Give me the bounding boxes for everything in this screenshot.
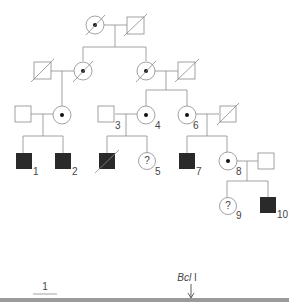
individual-IV-7 (258, 153, 274, 169)
individual-II-1 (31, 59, 54, 82)
unknown-status-icon: ? (144, 155, 150, 166)
individual-IV-4: ? 5 (139, 153, 162, 178)
individual-V-2: 10 (260, 197, 289, 220)
carrier-dot-icon (144, 113, 148, 117)
dna-bar (0, 298, 289, 302)
individual-label: 7 (196, 166, 202, 177)
individual-III-5: 6 (178, 106, 199, 131)
carrier-dot-icon (60, 113, 64, 117)
site-label: Bcl I (177, 272, 196, 283)
individual-II-3 (136, 61, 156, 82)
individual-label: 4 (155, 120, 161, 131)
individual-label: 3 (115, 120, 121, 131)
individual-III-3: 3 (98, 106, 121, 131)
carrier-dot-icon (185, 113, 189, 117)
individual-IV-5: 7 (179, 153, 202, 177)
individual-I-2 (124, 14, 147, 36)
individual-label: 8 (236, 166, 242, 177)
individual-label: 9 (236, 210, 242, 221)
individual-label: 5 (155, 166, 161, 177)
individual-IV-6: 8 (219, 152, 242, 177)
individual-I-1 (86, 15, 105, 35)
individual-III-2 (53, 106, 71, 124)
individual-label: 6 (193, 120, 199, 131)
individual-II-4 (175, 59, 199, 82)
individual-V-1: ? 9 (220, 198, 243, 222)
restriction-map: 1 Bcl I (0, 272, 289, 302)
individual-II-2 (73, 61, 93, 82)
individual-IV-3 (95, 150, 119, 173)
scale-label: 1 (42, 281, 48, 292)
individual-label: 10 (277, 209, 289, 220)
unknown-status-icon: ? (225, 200, 231, 211)
individual-III-6 (217, 103, 239, 125)
individual-III-4: 4 (137, 106, 161, 131)
individual-label: 2 (72, 166, 78, 177)
individual-IV-1: 1 (16, 153, 39, 177)
carrier-dot-icon (226, 159, 230, 163)
individual-III-1 (15, 106, 31, 122)
individual-IV-2: 2 (55, 153, 78, 177)
individual-label: 1 (33, 166, 39, 177)
pedigree-diagram: 3 4 6 1 2 ? 5 7 8 (0, 0, 289, 304)
